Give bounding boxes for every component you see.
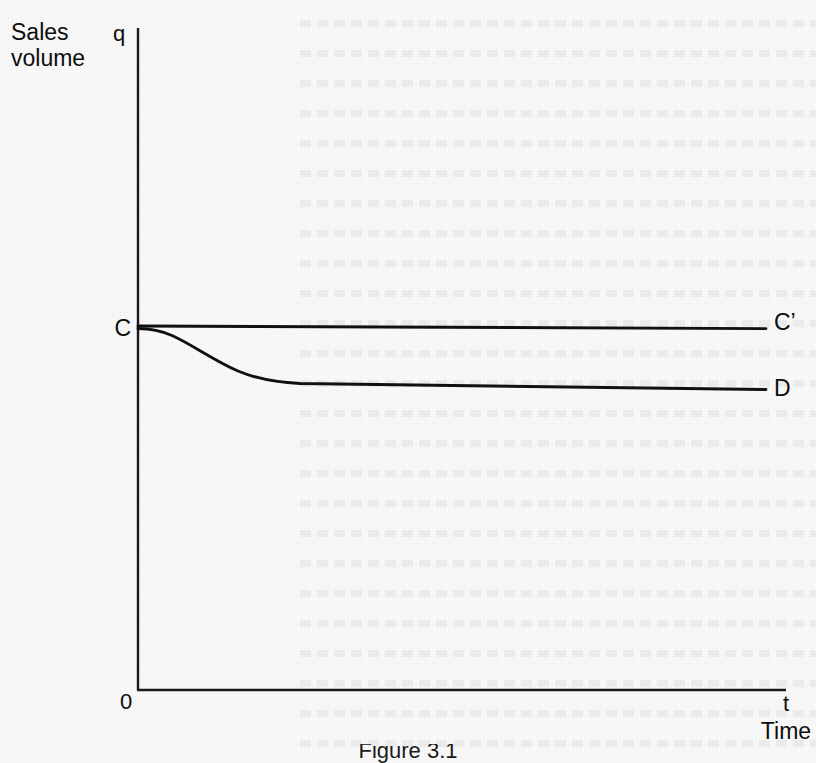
figure-caption-strip: Figure 3.1 bbox=[0, 744, 816, 763]
y-axis-title-line1: Sales bbox=[11, 19, 69, 45]
curve-label-d: D bbox=[774, 375, 791, 401]
x-axis-title: Time bbox=[761, 718, 811, 744]
x-axis-variable-label: t bbox=[783, 691, 789, 716]
curve-decay-d bbox=[138, 329, 766, 390]
curve-baseline-c-prime bbox=[138, 326, 766, 329]
curve-label-c-prime: C’ bbox=[774, 309, 796, 335]
figure-page: q Sales volume C C’ D 0 t Time Figure 3.… bbox=[0, 0, 816, 763]
y-axis-variable-label: q bbox=[113, 21, 125, 46]
y-axis-title-line2: volume bbox=[11, 45, 85, 71]
sales-volume-decay-chart: q Sales volume C C’ D 0 t Time bbox=[0, 0, 816, 763]
origin-label: 0 bbox=[120, 689, 132, 714]
point-c-label: C bbox=[114, 315, 131, 341]
figure-caption: Figure 3.1 bbox=[0, 744, 816, 763]
